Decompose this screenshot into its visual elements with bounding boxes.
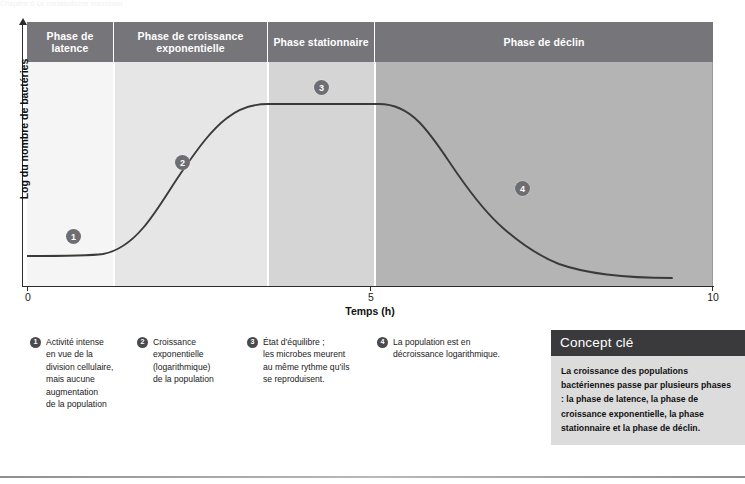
x-axis-title: Temps (h) <box>250 305 490 317</box>
note-text-4: La population est en décroissance logari… <box>393 336 500 361</box>
growth-curve <box>27 62 713 286</box>
note-number-1: 1 <box>30 337 41 348</box>
note-item-2: 2 Croissance exponentielle (logarithmiqu… <box>137 336 247 410</box>
phase-header-latence: Phase de latence <box>27 22 114 62</box>
phase-header-exponentielle: Phase de croissance exponentielle <box>114 22 268 62</box>
x-tick-label-5: 5 <box>356 291 386 303</box>
note-text-1: Activité intense en vue de la division c… <box>46 336 113 410</box>
note-text-2: Croissance exponentielle (logarithmique)… <box>153 336 214 386</box>
y-axis-title: Log du nombre de bactéries <box>18 29 30 229</box>
note-number-4: 4 <box>377 337 388 348</box>
figure-notes: 1 Activité intense en vue de la division… <box>30 336 530 410</box>
note-item-4: 4 La population est en décroissance loga… <box>377 336 527 410</box>
phase-header-declin: Phase de déclin <box>375 22 713 62</box>
plot-area: 1 2 3 4 <box>27 62 713 286</box>
x-tick-label-10: 10 <box>698 291 728 303</box>
growth-curve-figure: Phase de latence Phase de croissance exp… <box>0 0 745 484</box>
note-number-2: 2 <box>137 337 148 348</box>
curve-marker-2: 2 <box>175 155 190 170</box>
footer-divider <box>0 476 745 478</box>
concept-cle-body: La croissance des populations bactérienn… <box>551 356 745 445</box>
concept-cle-box: Concept clé La croissance des population… <box>551 330 745 445</box>
curve-marker-4: 4 <box>515 181 530 196</box>
note-item-3: 3 État d’équilibre ; les microbes meuren… <box>247 336 377 410</box>
curve-marker-3: 3 <box>314 80 329 95</box>
x-axis-line <box>22 286 714 287</box>
note-number-3: 3 <box>247 337 258 348</box>
phase-header-bar: Phase de latence Phase de croissance exp… <box>27 22 713 62</box>
x-tick-label-0: 0 <box>13 291 43 303</box>
curve-marker-1: 1 <box>66 229 81 244</box>
note-item-1: 1 Activité intense en vue de la division… <box>30 336 137 410</box>
note-text-3: État d’équilibre ; les microbes meurent … <box>263 336 349 386</box>
phase-header-stationnaire: Phase stationnaire <box>268 22 375 62</box>
concept-cle-title: Concept clé <box>551 330 745 356</box>
plot-right-border <box>712 62 713 286</box>
